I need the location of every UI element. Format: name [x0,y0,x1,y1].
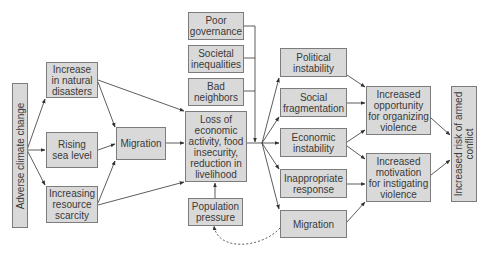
node-migration-left: Migration [116,127,166,160]
node-natural-disasters: Increase in natural disasters [46,62,98,98]
node-rising-sea-level: Rising sea level [46,132,98,168]
node-bad-neighbors: Bad neighbors [188,78,244,106]
node-societal-inequalities: Societal inequalities [188,45,244,73]
node-poor-governance: Poor governance [188,12,244,40]
node-increased-motivation: Increased motivation for instigating vio… [366,153,431,202]
node-resource-scarcity: Increasing resource scarcity [46,186,98,223]
node-social-fragmentation: Social fragmentation [280,88,347,117]
node-increased-risk-armed-conflict: Increased risk of armed conflict [451,86,477,202]
node-population-pressure: Population pressure [188,198,243,226]
node-economic-instability: Economic instability [280,128,347,157]
node-label: Adverse climate change [15,102,26,209]
node-label: Increased risk of armed conflict [453,92,475,197]
node-adverse-climate-change: Adverse climate change [12,83,28,228]
node-loss-economic-activity: Loss of economic activity, food insecuri… [185,111,247,182]
node-inappropriate-response: Inappropriate response [280,169,347,198]
climate-conflict-diagram: Adverse climate change Increase in natur… [0,0,490,261]
node-political-instability: Political instability [280,48,347,77]
node-migration-right: Migration [280,210,347,238]
node-increased-opportunity: Increased opportunity for organizing vio… [366,86,431,135]
